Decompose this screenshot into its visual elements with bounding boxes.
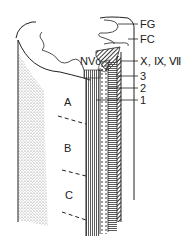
outer-stippled-layer <box>18 52 48 226</box>
callout-1: 1 <box>140 94 146 106</box>
tract-columns <box>86 52 121 236</box>
callout-fg: FG <box>140 18 155 30</box>
fc-contour <box>104 43 128 46</box>
label-c: C <box>65 189 73 201</box>
fg-contour <box>99 20 118 44</box>
division-dashes <box>58 116 86 220</box>
label-b: B <box>64 142 71 154</box>
callout-cranial-nerves: Ⅹ, Ⅸ, Ⅶ <box>140 55 181 67</box>
label-nvc: NVc <box>80 55 101 67</box>
callout-fc: FC <box>140 33 155 45</box>
callout-3: 3 <box>140 70 146 82</box>
callout-2: 2 <box>140 82 146 94</box>
gyrus-contour <box>40 32 84 70</box>
diagram-canvas: NVc A B C FG FC Ⅹ, Ⅸ, Ⅶ 3 2 1 <box>0 0 194 242</box>
label-a: A <box>64 96 72 108</box>
